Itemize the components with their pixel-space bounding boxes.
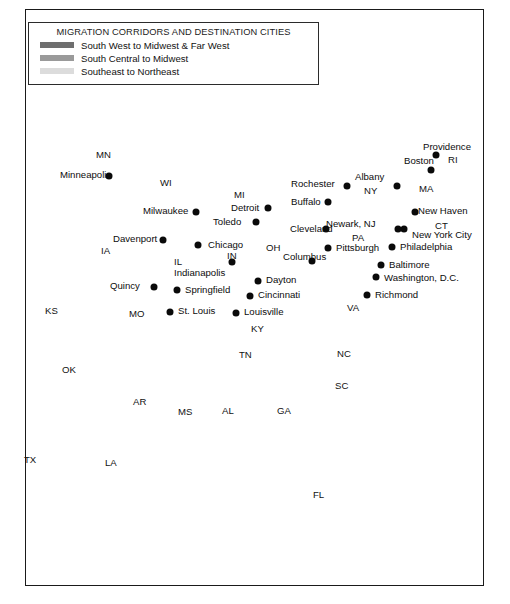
city-label-baltimore: Baltimore <box>389 260 430 270</box>
city-dot-rochester[interactable] <box>344 183 351 190</box>
state-label-oh: OH <box>266 243 280 253</box>
city-label-toledo: Toledo <box>213 217 241 227</box>
city-dot-new-york-city[interactable] <box>401 226 408 233</box>
city-label-washington-d-c: Washington, D.C. <box>384 273 459 283</box>
state-label-ks: KS <box>45 306 58 316</box>
city-dot-albany[interactable] <box>394 183 401 190</box>
city-label-dayton: Dayton <box>266 275 296 285</box>
city-label-chicago: Chicago <box>208 240 243 250</box>
state-label-mi: MI <box>234 190 245 200</box>
state-label-ms: MS <box>178 407 192 417</box>
city-label-pittsburgh: Pittsburgh <box>336 243 379 253</box>
city-label-louisville: Louisville <box>244 307 283 317</box>
state-label-sc: SC <box>335 381 348 391</box>
state-label-ok: OK <box>62 365 76 375</box>
city-label-boston: Boston <box>404 156 434 166</box>
city-label-minneapolis: Minneapolis <box>60 170 111 180</box>
city-label-cincinnati: Cincinnati <box>258 290 300 300</box>
city-label-springfield: Springfield <box>185 285 230 295</box>
city-label-davenport: Davenport <box>113 234 157 244</box>
city-dot-richmond[interactable] <box>364 292 371 299</box>
city-label-philadelphia: Philadelphia <box>400 242 452 252</box>
city-label-columbus: Columbus <box>283 252 326 262</box>
migration-corridors-map: MIGRATION CORRIDORS AND DESTINATION CITI… <box>0 0 510 604</box>
city-label-providence: Providence <box>423 142 471 152</box>
city-label-indianapolis: Indianapolis <box>174 268 225 278</box>
city-dot-davenport[interactable] <box>160 237 167 244</box>
city-label-newark-nj: Newark, NJ <box>326 219 376 229</box>
city-label-richmond: Richmond <box>375 290 418 300</box>
legend-label-south-central: South Central to Midwest <box>81 53 188 64</box>
city-dot-buffalo[interactable] <box>325 199 332 206</box>
city-dot-quincy[interactable] <box>151 284 158 291</box>
city-label-rochester: Rochester <box>291 179 335 189</box>
city-label-new-york-city: New York City <box>412 230 472 240</box>
state-label-ky: KY <box>251 324 264 334</box>
city-label-st-louis: St. Louis <box>178 306 215 316</box>
city-dot-washington-d-c[interactable] <box>373 274 380 281</box>
state-label-ma: MA <box>419 184 433 194</box>
city-dot-chicago[interactable] <box>195 242 202 249</box>
legend-label-southeast: Southeast to Northeast <box>81 66 179 77</box>
city-label-albany: Albany <box>355 172 384 182</box>
state-label-ri: RI <box>448 155 458 165</box>
city-dot-philadelphia[interactable] <box>389 244 396 251</box>
state-label-tx: TX <box>24 455 36 465</box>
city-dot-baltimore[interactable] <box>378 262 385 269</box>
city-dot-newark-nj[interactable] <box>395 226 402 233</box>
state-label-ar: AR <box>133 397 146 407</box>
state-label-ny: NY <box>364 186 377 196</box>
city-dot-st-louis[interactable] <box>167 309 174 316</box>
state-label-va: VA <box>347 303 359 313</box>
state-label-fl: FL <box>313 490 324 500</box>
city-dot-springfield[interactable] <box>174 287 181 294</box>
city-label-new-haven: New Haven <box>418 206 468 216</box>
state-label-tn: TN <box>239 350 252 360</box>
legend-entry-south-west: South West to Midwest & Far West <box>40 39 313 51</box>
city-dot-louisville[interactable] <box>233 310 240 317</box>
city-dot-indianapolis[interactable] <box>229 259 236 266</box>
city-label-detroit: Detroit <box>231 203 259 213</box>
legend-title: MIGRATION CORRIDORS AND DESTINATION CITI… <box>34 27 313 37</box>
legend-label-south-west: South West to Midwest & Far West <box>81 40 229 51</box>
state-label-al: AL <box>222 406 234 416</box>
state-label-mo: MO <box>129 309 144 319</box>
city-dot-toledo[interactable] <box>253 219 260 226</box>
city-label-quincy: Quincy <box>110 281 140 291</box>
state-label-ga: GA <box>277 406 291 416</box>
city-dot-dayton[interactable] <box>255 278 262 285</box>
city-dot-cincinnati[interactable] <box>247 293 254 300</box>
state-label-ia: IA <box>101 246 110 256</box>
swatch-south-west <box>40 42 74 48</box>
state-label-wi: WI <box>160 178 172 188</box>
state-label-mn: MN <box>96 150 111 160</box>
city-label-milwaukee: Milwaukee <box>143 206 188 216</box>
map-legend: MIGRATION CORRIDORS AND DESTINATION CITI… <box>28 22 319 85</box>
city-label-buffalo: Buffalo <box>291 197 321 207</box>
city-dot-milwaukee[interactable] <box>193 209 200 216</box>
legend-entry-southeast: Southeast to Northeast <box>40 65 313 77</box>
legend-entry-south-central: South Central to Midwest <box>40 52 313 64</box>
state-label-nc: NC <box>337 349 351 359</box>
state-label-il: IL <box>174 257 182 267</box>
swatch-southeast <box>40 68 74 74</box>
state-label-la: LA <box>105 458 117 468</box>
swatch-south-central <box>40 55 74 61</box>
city-dot-boston[interactable] <box>428 167 435 174</box>
city-dot-detroit[interactable] <box>265 205 272 212</box>
